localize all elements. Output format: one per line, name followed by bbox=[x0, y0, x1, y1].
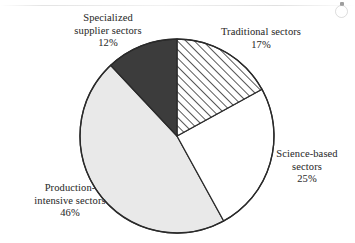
pie-label-specialized-supplier-sectors: Specialized supplier sectors 12% bbox=[46, 12, 170, 50]
pie-label-science-value: 25% bbox=[262, 173, 352, 186]
pie-label-production-intensive-sectors: Production- intensive sectors 46% bbox=[6, 182, 134, 220]
pie-label-traditional-line1: Traditional sectors bbox=[196, 26, 326, 39]
pie-label-traditional-sectors: Traditional sectors 17% bbox=[196, 26, 326, 51]
pie-label-science-line1: Science-based bbox=[262, 148, 352, 161]
pie-label-specialized-line1: Specialized bbox=[46, 12, 170, 25]
pie-label-science-based-sectors: Science-based sectors 25% bbox=[262, 148, 352, 186]
pie-label-traditional-value: 17% bbox=[196, 39, 326, 52]
pie-label-specialized-line2: supplier sectors bbox=[46, 25, 170, 38]
pie-label-production-line2: intensive sectors bbox=[6, 195, 134, 208]
pie-label-science-line2: sectors bbox=[262, 161, 352, 174]
pie-label-specialized-value: 12% bbox=[46, 37, 170, 50]
pie-label-production-value: 46% bbox=[6, 207, 134, 220]
pie-label-production-line1: Production- bbox=[6, 182, 134, 195]
pie-chart-figure: Specialized supplier sectors 12% Traditi… bbox=[0, 0, 355, 243]
